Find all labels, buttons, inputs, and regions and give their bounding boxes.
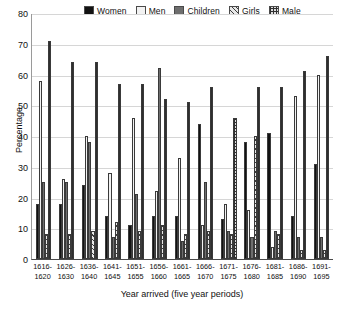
x-tick-label: 1671-1675 (217, 262, 240, 281)
bar-male[interactable] (303, 71, 306, 259)
bar-male[interactable] (71, 62, 74, 259)
x-tick-label: 1681-1685 (263, 262, 286, 281)
bar-group (125, 14, 148, 259)
x-tick-label: 1686-1690 (287, 262, 310, 281)
x-tick-label: 1666-1670 (194, 262, 217, 281)
bar-group (194, 14, 217, 259)
x-axis-title: Year arrived (five year periods) (31, 289, 333, 299)
y-tick-label: 10 (6, 225, 28, 234)
bar-group (78, 14, 101, 259)
bar-group (148, 14, 171, 259)
bar-group (171, 14, 194, 259)
x-tick-label: 1691-1695 (310, 262, 333, 281)
bar-groups (32, 14, 333, 259)
bar-group (55, 14, 78, 259)
bar-male[interactable] (118, 84, 121, 259)
bar-male[interactable] (280, 87, 283, 259)
bar-men[interactable] (317, 75, 320, 260)
bar-chart: Women Men Children Girls Male Percentage… (0, 0, 342, 322)
bar-group (217, 14, 240, 259)
x-tick-label: 1656-1660 (147, 262, 170, 281)
y-tick-label: 50 (6, 102, 28, 111)
y-tick-label: 20 (6, 194, 28, 203)
bar-male[interactable] (141, 84, 144, 259)
plot-area (31, 14, 333, 260)
bar-male[interactable] (326, 56, 329, 259)
bar-group (310, 14, 333, 259)
bar-male[interactable] (164, 99, 167, 259)
y-tick-label: 70 (6, 40, 28, 49)
bar-male[interactable] (48, 41, 51, 259)
x-tick-label: 1616-1620 (31, 262, 54, 281)
x-tick-label: 1636-1640 (77, 262, 100, 281)
bar-male[interactable] (187, 102, 190, 259)
bar-women[interactable] (267, 133, 270, 259)
x-tick-label: 1626-1630 (54, 262, 77, 281)
x-axis-labels: 1616-16201626-16301636-16401641-16451651… (31, 262, 333, 281)
y-tick-label: 40 (6, 133, 28, 142)
x-tick-label: 1651-1655 (124, 262, 147, 281)
x-tick-label: 1641-1645 (101, 262, 124, 281)
y-axis-ticks: 01020304050607080 (6, 14, 28, 260)
bar-group (101, 14, 124, 259)
bar-male[interactable] (257, 87, 260, 259)
y-tick-label: 80 (6, 10, 28, 19)
bar-group (32, 14, 55, 259)
bar-group (287, 14, 310, 259)
bar-male[interactable] (95, 62, 98, 259)
y-tick-label: 60 (6, 71, 28, 80)
x-tick-label: 1661-1665 (170, 262, 193, 281)
bar-male[interactable] (210, 87, 213, 259)
bar-male[interactable] (233, 118, 236, 259)
x-tick-label: 1676-1680 (240, 262, 263, 281)
y-tick-label: 0 (6, 256, 28, 265)
bar-men[interactable] (294, 96, 297, 259)
bar-group (264, 14, 287, 259)
y-tick-label: 30 (6, 163, 28, 172)
bar-group (240, 14, 263, 259)
